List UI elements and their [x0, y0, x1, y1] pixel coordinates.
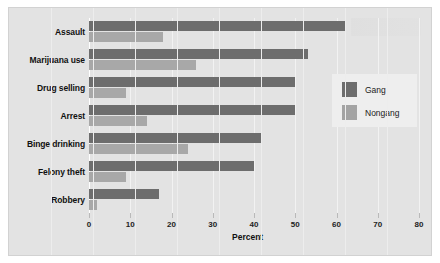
- category-label: Felony theft: [38, 167, 85, 177]
- bar-nongang-assault: [89, 32, 163, 42]
- bar-nongang-binge-drinking: [89, 144, 188, 154]
- category-label: Arrest: [61, 111, 85, 121]
- bar-gang-marijuana-use: [89, 49, 308, 59]
- background-band: [219, 8, 220, 255]
- bar-gang-robbery: [89, 189, 159, 199]
- x-axis-title: Percent: [232, 232, 263, 242]
- background-band: [261, 8, 262, 255]
- bar-gang-assault: [89, 21, 345, 31]
- tick-mark: [295, 213, 296, 218]
- bar-nongang-drug-selling: [89, 88, 126, 98]
- category-label: Robbery: [51, 195, 85, 205]
- tick-label: 30: [198, 220, 228, 229]
- background-band: [303, 8, 304, 255]
- category-label: Assault: [55, 27, 85, 37]
- tick-mark: [254, 213, 255, 218]
- bar-gang-binge-drinking: [89, 133, 262, 143]
- gridline: [419, 18, 420, 213]
- tick-label: 50: [280, 220, 310, 229]
- bar-nongang-felony-theft: [89, 172, 126, 182]
- tick-label: 40: [239, 220, 269, 229]
- gridline: [295, 18, 296, 213]
- bar-nongang-arrest: [89, 116, 147, 126]
- bar-gang-felony-theft: [89, 161, 254, 171]
- tick-mark: [378, 213, 379, 218]
- tick-label: 0: [74, 220, 104, 229]
- tick-mark: [89, 213, 90, 218]
- tick-mark: [172, 213, 173, 218]
- background-band: [93, 8, 94, 255]
- background-band: [51, 8, 52, 255]
- tick-label: 10: [115, 220, 145, 229]
- legend-label: Nongang: [365, 108, 400, 118]
- bar-gang-drug-selling: [89, 77, 295, 87]
- tick-label: 60: [322, 220, 352, 229]
- category-label: Drug selling: [37, 83, 85, 93]
- tick-mark: [213, 213, 214, 218]
- background-band: [387, 8, 388, 255]
- tick-mark: [419, 213, 420, 218]
- gridline: [172, 18, 173, 213]
- legend-item[interactable]: Gang: [342, 82, 417, 97]
- legend-item[interactable]: Nongang: [342, 105, 417, 120]
- tick-label: 20: [157, 220, 187, 229]
- bar-gang-arrest: [89, 105, 295, 115]
- background-band: [177, 8, 178, 255]
- gridline: [254, 18, 255, 213]
- bar-nongang-marijuana-use: [89, 60, 196, 70]
- tick-label: 80: [404, 220, 434, 229]
- category-label: Binge drinking: [27, 139, 85, 149]
- tick-label: 70: [363, 220, 393, 229]
- tick-mark: [130, 213, 131, 218]
- background-band: [345, 8, 346, 255]
- legend-label: Gang: [365, 85, 386, 95]
- background-band: [135, 8, 136, 255]
- category-label: Marijuana use: [30, 55, 85, 65]
- chart-panel: AssaultMarijuana useDrug sellingArrestBi…: [8, 7, 432, 256]
- chart-screenshot: AssaultMarijuana useDrug sellingArrestBi…: [0, 0, 440, 263]
- tick-mark: [337, 213, 338, 218]
- gridline: [213, 18, 214, 213]
